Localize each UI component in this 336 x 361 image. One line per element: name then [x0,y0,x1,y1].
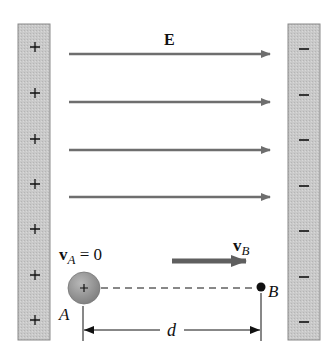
parallel-plate-diagram: E vA = 0 vB B A d [0,0,336,361]
field-label: E [164,31,175,48]
velocity-a-label: vA = 0 [59,245,102,267]
positive-plate [18,24,50,340]
electric-field-arrows [69,54,270,197]
point-a-label: A [58,305,70,324]
point-b-label: B [268,282,279,301]
velocity-b-label: vB [233,236,250,258]
charge-particle [68,272,100,304]
point-b-dot [257,283,266,292]
distance-label: d [167,320,177,340]
negative-plate [288,24,320,340]
